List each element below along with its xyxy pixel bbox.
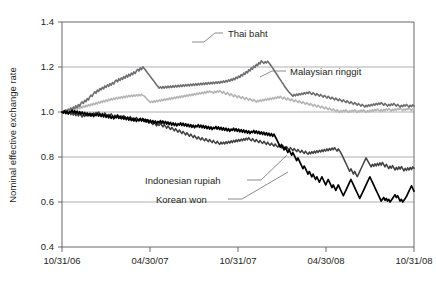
malaysian-ringgit-label: Malaysian ringgit <box>290 66 362 77</box>
x-tick-label: 04/30/07 <box>132 255 169 266</box>
y-axis-title: Nominal effective exchange rate <box>7 67 18 203</box>
indonesian-rupiah-label: Indonesian rupiah <box>145 175 221 186</box>
exchange-rate-line-chart: 0.40.60.81.01.21.4 10/31/0604/30/0710/31… <box>0 0 436 289</box>
x-tick-label: 04/30/08 <box>308 255 345 266</box>
y-tick-label: 0.4 <box>41 241 54 252</box>
x-tick-label: 10/31/07 <box>220 255 257 266</box>
y-tick-label: 1.0 <box>41 106 54 117</box>
y-tick-label: 1.2 <box>41 61 54 72</box>
x-tick-label: 10/31/08 <box>396 255 433 266</box>
y-tick-label: 0.8 <box>41 151 54 162</box>
thai-baht-label: Thai baht <box>228 28 268 39</box>
y-tick-label: 0.6 <box>41 196 54 207</box>
chart-container: 0.40.60.81.01.21.4 10/31/0604/30/0710/31… <box>0 0 436 289</box>
korean-won-label: Korean won <box>156 194 207 205</box>
y-tick-label: 1.4 <box>41 16 54 27</box>
chart-background <box>0 0 436 289</box>
x-tick-label: 10/31/06 <box>44 255 81 266</box>
